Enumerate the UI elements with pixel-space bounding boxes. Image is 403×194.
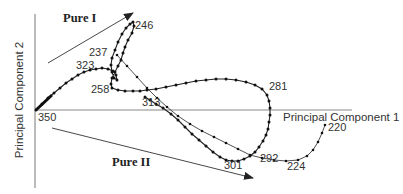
data-point bbox=[215, 78, 218, 81]
data-point bbox=[116, 54, 119, 57]
data-point bbox=[265, 134, 268, 137]
data-point bbox=[114, 71, 117, 74]
data-point bbox=[132, 90, 135, 93]
data-point bbox=[115, 74, 118, 77]
data-point bbox=[77, 74, 80, 77]
data-point bbox=[155, 88, 158, 91]
data-point bbox=[117, 65, 120, 68]
data-point bbox=[114, 49, 117, 52]
data-point bbox=[258, 146, 261, 149]
data-point bbox=[111, 87, 114, 90]
pure-1-label: Pure I bbox=[63, 11, 96, 26]
data-point bbox=[213, 136, 216, 139]
data-point bbox=[117, 41, 120, 44]
data-point bbox=[269, 114, 272, 117]
data-point bbox=[306, 155, 309, 158]
data-point bbox=[124, 90, 127, 93]
data-point bbox=[107, 68, 110, 71]
data-point bbox=[122, 52, 125, 55]
data-point bbox=[110, 64, 113, 67]
data-point bbox=[243, 158, 246, 161]
data-point bbox=[125, 27, 128, 30]
data-point bbox=[71, 78, 74, 81]
data-point bbox=[126, 65, 129, 68]
data-point bbox=[249, 154, 252, 157]
data-point bbox=[111, 77, 114, 80]
pure-2-arrow bbox=[52, 128, 253, 178]
pure-2-label: Pure II bbox=[112, 155, 150, 170]
data-point bbox=[95, 68, 98, 71]
point-label-350: 350 bbox=[38, 112, 56, 123]
data-point bbox=[184, 126, 187, 129]
data-point bbox=[177, 115, 180, 118]
point-label-301: 301 bbox=[224, 160, 242, 171]
point-label-224: 224 bbox=[287, 161, 305, 172]
data-point bbox=[191, 133, 194, 136]
data-point bbox=[146, 87, 149, 90]
data-point bbox=[124, 46, 127, 49]
data-point bbox=[254, 151, 257, 154]
data-point bbox=[65, 82, 68, 85]
data-point bbox=[185, 82, 188, 85]
data-point bbox=[177, 119, 180, 122]
curve-trajectory-tail bbox=[117, 55, 325, 161]
point-label-323: 323 bbox=[76, 60, 94, 71]
data-point bbox=[195, 80, 198, 83]
pca-trajectory-chart bbox=[0, 0, 403, 194]
point-label-258: 258 bbox=[91, 84, 109, 95]
point-label-313: 313 bbox=[142, 97, 160, 108]
data-point bbox=[117, 89, 120, 92]
data-point bbox=[110, 83, 113, 86]
data-point bbox=[59, 87, 62, 90]
data-point bbox=[317, 141, 320, 144]
data-point bbox=[116, 79, 119, 82]
data-point bbox=[235, 79, 238, 82]
data-point bbox=[205, 79, 208, 82]
y-axis-label: Principal Component 2 bbox=[13, 42, 25, 158]
data-point bbox=[201, 130, 204, 133]
data-point bbox=[205, 145, 208, 148]
data-point bbox=[129, 23, 132, 26]
data-point bbox=[170, 113, 173, 116]
data-point bbox=[261, 88, 264, 91]
data-point bbox=[198, 139, 201, 142]
data-point bbox=[219, 156, 222, 159]
data-point bbox=[175, 84, 178, 87]
data-point bbox=[268, 100, 271, 103]
data-point bbox=[225, 142, 228, 145]
data-point bbox=[111, 57, 114, 60]
point-label-246: 246 bbox=[135, 20, 153, 31]
data-point bbox=[269, 107, 272, 110]
data-point bbox=[165, 86, 168, 89]
data-point bbox=[267, 128, 270, 131]
data-point bbox=[268, 121, 271, 124]
data-point bbox=[111, 71, 114, 74]
data-point bbox=[324, 124, 327, 127]
data-point bbox=[131, 32, 134, 35]
data-point bbox=[312, 149, 315, 152]
data-point bbox=[212, 151, 215, 154]
point-label-292: 292 bbox=[260, 153, 278, 164]
data-point bbox=[262, 140, 265, 143]
data-point bbox=[266, 94, 269, 97]
point-label-237: 237 bbox=[89, 47, 107, 58]
data-point bbox=[237, 148, 240, 151]
data-point bbox=[121, 33, 124, 36]
data-point bbox=[189, 123, 192, 126]
data-point bbox=[245, 81, 248, 84]
data-point bbox=[254, 84, 257, 87]
data-point bbox=[162, 107, 165, 110]
data-point bbox=[53, 92, 56, 95]
data-point bbox=[139, 90, 142, 93]
dense-start-segment bbox=[36, 95, 52, 110]
curve-trajectory bbox=[36, 22, 270, 161]
data-point bbox=[321, 132, 324, 135]
point-label-220: 220 bbox=[328, 122, 346, 133]
data-point bbox=[127, 39, 130, 42]
point-label-281: 281 bbox=[269, 81, 287, 92]
data-point bbox=[136, 76, 139, 79]
data-point bbox=[225, 78, 228, 81]
data-point bbox=[101, 67, 104, 70]
data-point bbox=[166, 106, 169, 109]
